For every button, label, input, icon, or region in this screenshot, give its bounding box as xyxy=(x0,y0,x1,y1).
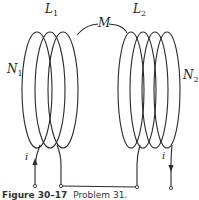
label-l1: L1 xyxy=(45,3,58,18)
label-current-left: i xyxy=(25,152,28,162)
coil-2-loop xyxy=(118,32,144,148)
terminal-left xyxy=(33,184,36,187)
coil-2-loop xyxy=(142,32,168,148)
connecting-wire xyxy=(61,186,137,187)
coil-2-lead-left xyxy=(137,145,140,187)
current-arrow-down xyxy=(169,165,174,172)
terminal-junction-2 xyxy=(135,185,138,188)
coil-1 xyxy=(22,32,78,148)
caption-number: Figure 30–17 xyxy=(2,190,67,200)
coil-1-lead-right xyxy=(57,145,61,186)
terminal-junction-1 xyxy=(59,184,62,187)
mutual-leader-right xyxy=(109,24,127,33)
label-n1: N1 xyxy=(7,63,23,78)
label-l2: L2 xyxy=(133,3,146,18)
label-n2: N2 xyxy=(183,69,199,84)
label-m: M xyxy=(98,17,110,29)
coupled-coils-diagram xyxy=(0,0,199,200)
coil-2 xyxy=(118,32,180,148)
coil-2-loop xyxy=(130,32,156,148)
coil-2-loop xyxy=(154,32,180,148)
terminal-right xyxy=(169,186,172,189)
coil-1-loop xyxy=(35,32,65,148)
current-arrow-up xyxy=(33,158,38,165)
figure-caption: Figure 30–17Problem 31. xyxy=(2,190,127,200)
mutual-leader-left xyxy=(77,24,98,35)
caption-text: Problem 31. xyxy=(73,190,127,200)
label-current-right: i xyxy=(162,151,165,161)
